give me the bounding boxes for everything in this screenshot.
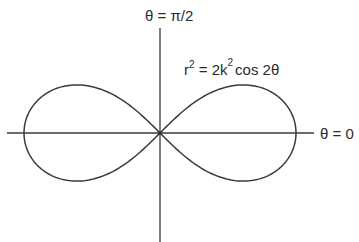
lemniscate-diagram: θ = π/2 θ = 0 r2 = 2k2cos 2θ — [0, 0, 359, 242]
equation-rhs: cos 2θ — [235, 61, 279, 78]
curve-equation: r2 = 2k2cos 2θ — [184, 57, 279, 78]
horizontal-axis-label: θ = 0 — [320, 125, 354, 142]
equation-coefficient-exponent: 2 — [228, 57, 234, 68]
equation-coefficient: = 2k — [195, 61, 228, 78]
vertical-axis-label: θ = π/2 — [145, 7, 193, 24]
origin-point — [158, 131, 161, 134]
